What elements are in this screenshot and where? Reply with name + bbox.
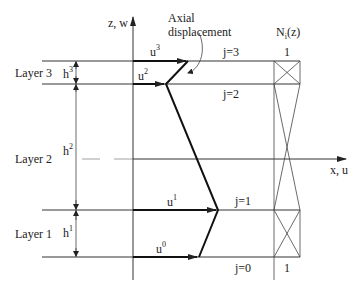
u-label-2: u2	[138, 67, 148, 83]
annotation-leader	[188, 33, 202, 73]
shape-function-top-value: 1	[284, 45, 290, 59]
interface-label-j0: j=0	[234, 261, 251, 275]
u-label-1: u1	[167, 193, 177, 209]
thickness-label-1: h1	[63, 224, 73, 240]
z-axis-label: z, w	[108, 16, 128, 30]
interface-label-j2: j=2	[222, 87, 239, 101]
u-label-3: u3	[150, 43, 160, 59]
annotation-line1: Axial	[168, 11, 195, 25]
thickness-label-3: h3	[63, 65, 73, 81]
u-label-0: u0	[156, 240, 166, 256]
shape-function-label: Ni(z)	[276, 25, 300, 41]
layer-label-3: Layer 3	[15, 66, 52, 80]
thickness-label-2: h2	[63, 142, 73, 158]
layered-displacement-diagram: z, w x, u Axial displacement Ni(z) 1 1 L…	[0, 0, 361, 282]
interface-label-j1: j=1	[234, 194, 251, 208]
x-axis-label: x, u	[330, 163, 348, 177]
interface-label-j3: j=3	[222, 45, 239, 59]
layer-label-2: Layer 2	[15, 152, 52, 166]
layer-label-1: Layer 1	[15, 227, 52, 241]
shape-function-bottom-value: 1	[284, 261, 290, 275]
shape-function-plot	[274, 61, 300, 280]
annotation-line2: displacement	[168, 25, 232, 39]
